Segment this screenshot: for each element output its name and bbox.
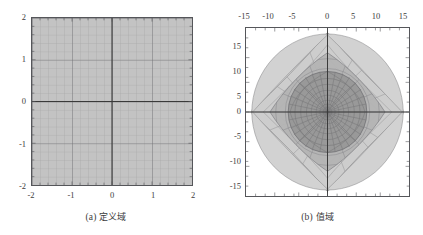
domain-xtick-0: -2	[22, 191, 40, 200]
range-ytick-3: 0	[226, 107, 241, 116]
range-regions-group	[246, 28, 409, 196]
range-ytick-4: -5	[220, 132, 241, 141]
domain-plot-svg	[32, 18, 192, 185]
domain-ytick-3: -1	[5, 140, 26, 149]
plot-frame-domain	[31, 17, 193, 186]
range-xtick-0: -15	[232, 12, 256, 21]
range-ytick-6: -15	[217, 182, 241, 191]
range-xtick-2: -5	[282, 12, 302, 21]
caption-domain-text: 定义域	[99, 212, 126, 222]
range-xtick-1: -10	[256, 12, 280, 21]
range-plot-svg	[246, 28, 409, 196]
figure-container: 2 1 0 -1 -2 -2 -1 0 1 2 (a)定义域	[0, 0, 423, 235]
caption-range-text: 值域	[316, 212, 334, 222]
panel-range: -15 -10 -5 0 5 10 15 15 10 5 0 -5 -10 -1…	[212, 0, 423, 235]
range-ytick-0: 15	[222, 42, 241, 51]
domain-xtick-4: 2	[184, 191, 202, 200]
range-xtick-3: 0	[320, 12, 334, 21]
range-xtick-5: 10	[367, 12, 385, 21]
domain-ytick-4: -2	[5, 182, 26, 191]
range-ytick-5: -10	[217, 157, 241, 166]
domain-ytick-2: 0	[8, 97, 26, 106]
caption-domain: (a)定义域	[0, 210, 212, 223]
domain-ytick-0: 2	[8, 13, 26, 22]
panel-domain: 2 1 0 -1 -2 -2 -1 0 1 2 (a)定义域	[0, 0, 212, 235]
range-xtick-6: 15	[394, 12, 412, 21]
plot-area-domain	[31, 17, 193, 186]
range-xtick-4: 5	[346, 12, 360, 21]
range-ytick-2: 5	[226, 92, 241, 101]
domain-ytick-1: 1	[8, 55, 26, 64]
caption-domain-label: (a)	[86, 212, 97, 222]
caption-range-label: (b)	[301, 212, 312, 222]
domain-xtick-2: 0	[103, 191, 121, 200]
domain-xtick-3: 1	[144, 191, 162, 200]
plot-area-range	[245, 27, 410, 197]
domain-xtick-1: -1	[62, 191, 80, 200]
caption-range: (b)值域	[212, 210, 423, 223]
range-ytick-1: 10	[222, 67, 241, 76]
plot-frame-range	[245, 27, 410, 197]
